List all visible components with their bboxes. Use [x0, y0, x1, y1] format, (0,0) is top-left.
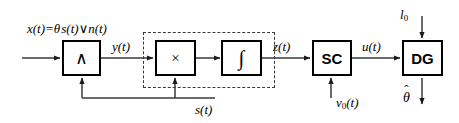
l0-input-label: l0	[400, 8, 408, 23]
block-diagram: ∧ × ∫ SC DG x(t)=θ s(t)∨n(t) y(t) z(t) u…	[0, 0, 459, 123]
l0-subscript: 0	[404, 13, 408, 23]
theta-hat-output-label: ˆ θ	[403, 91, 410, 105]
and-gate-block[interactable]: ∧	[62, 40, 101, 76]
and-gate-symbol: ∧	[75, 50, 87, 67]
input-equation-theta: θ	[54, 21, 60, 36]
integrator-symbol: ∫	[239, 48, 245, 69]
theta-hat-mark: ˆ	[404, 83, 408, 96]
s-feedback-label: s(t)	[195, 103, 212, 116]
v0-suffix: (t)	[346, 95, 358, 110]
y-signal-label: y(t)	[112, 40, 130, 53]
dg-block[interactable]: DG	[402, 40, 443, 76]
multiplier-block[interactable]: ×	[155, 40, 196, 76]
input-equation-n: n(t)	[88, 21, 107, 36]
theta-hat-wrapper: ˆ θ	[403, 91, 410, 105]
input-equation-or-symbol: ∨	[79, 21, 89, 36]
z-signal-label: z(t)	[273, 40, 290, 53]
u-signal-label: u(t)	[362, 40, 381, 53]
input-equation-s: s(t)	[61, 21, 78, 36]
dg-label: DG	[411, 51, 434, 66]
sc-block[interactable]: SC	[312, 40, 352, 76]
sc-label: SC	[322, 51, 343, 66]
input-equation-label: x(t)=θ s(t)∨n(t)	[27, 22, 107, 35]
v0-input-label: v0(t)	[336, 96, 358, 111]
integrator-block[interactable]: ∫	[221, 40, 262, 76]
input-equation-lhs: x(t)=	[27, 21, 54, 36]
multiplier-symbol: ×	[171, 51, 179, 66]
